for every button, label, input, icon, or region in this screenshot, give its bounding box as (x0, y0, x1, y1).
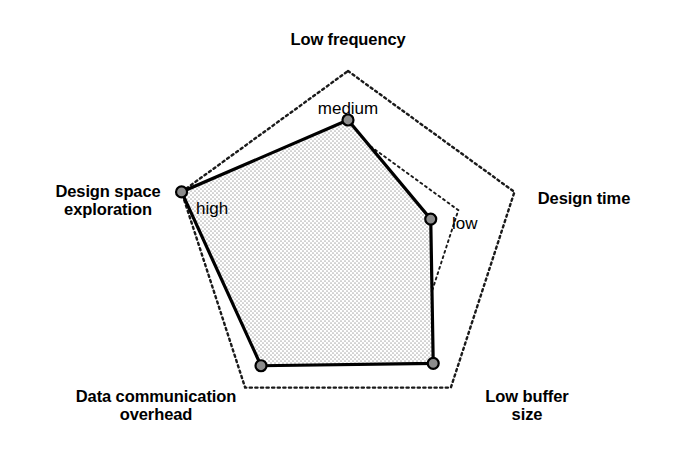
value-label-design-time: low (452, 215, 478, 232)
axis-label-low-buffer-size: Low buffer size (485, 387, 568, 424)
axis-label-design-time: Design time (538, 189, 630, 207)
data-point-marker-low-buffer-size (428, 358, 439, 369)
axis-label-data-communication-overhead: Data communication overhead (76, 387, 236, 424)
value-label-design-space-exploration: high (196, 200, 228, 217)
radar-chart: Low frequency Design time Low buffer siz… (0, 0, 689, 461)
data-point-marker-design-time (425, 214, 436, 225)
series-polygon-group (182, 120, 434, 366)
axis-label-design-space-exploration: Design space exploration (55, 182, 160, 219)
axis-label-low-frequency: Low frequency (290, 30, 405, 48)
data-point-marker-design-space-exploration (176, 186, 187, 197)
data-point-marker-data-communication-overhead (256, 360, 267, 371)
series-fill (182, 120, 434, 366)
value-label-low-frequency: medium (318, 100, 378, 117)
